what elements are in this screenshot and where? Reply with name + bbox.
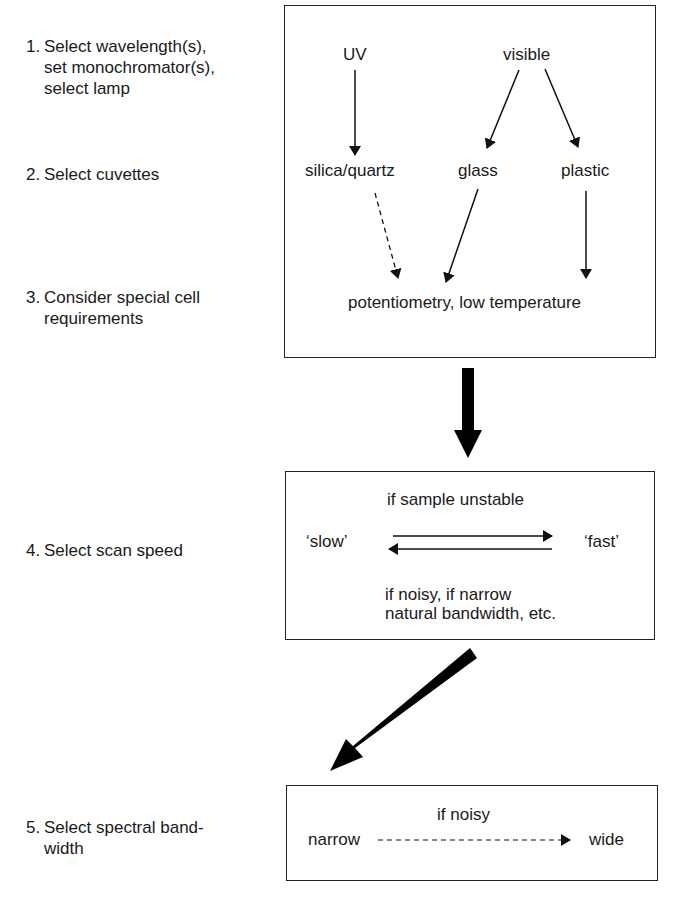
arrow-visible-to-plastic [545,69,578,147]
big-diagonal-arrow [330,648,477,771]
arrows-layer [0,0,683,903]
arrow-visible-to-glass [487,70,519,148]
big-down-arrow [454,368,482,458]
arrow-glass-to-special [446,189,478,282]
arrow-silica-to-special-dashed [375,193,398,278]
